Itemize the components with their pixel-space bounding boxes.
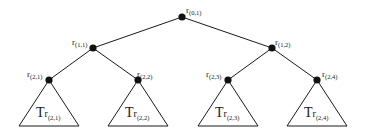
edge-r11-r21: [49, 48, 93, 80]
subtree-label-r21: Tr(2,1): [36, 105, 60, 122]
node-r24: [313, 76, 320, 83]
edge-r01-r12: [182, 17, 272, 48]
subtree-label-r24: Tr(2,4): [304, 105, 328, 122]
node-label-r11: r(1,1): [72, 37, 87, 49]
node-label-r23: r(2,3): [206, 69, 221, 81]
node-r21: [45, 76, 52, 83]
node-r01: [178, 13, 185, 20]
tree-edges: [49, 17, 317, 80]
node-label-r01: r(0,1): [186, 5, 201, 17]
tree-nodes: [45, 13, 320, 83]
subtree-triangles: [19, 80, 347, 126]
node-label-r21: r(2,1): [27, 69, 42, 81]
binary-tree-diagram: r(0,1) r(1,1) r(1,2) r(2,1) r(2,2) r(2,3…: [0, 0, 365, 138]
edge-r01-r11: [93, 17, 182, 48]
node-label-r24: r(2,4): [322, 69, 337, 81]
subtree-labels: Tr(2,1) Tr(2,2) Tr(2,3) Tr(2,4): [36, 105, 328, 122]
edge-r11-r22: [93, 48, 138, 80]
subtree-label-r22: Tr(2,2): [125, 105, 149, 122]
subtree-label-r23: Tr(2,3): [215, 105, 239, 122]
node-label-r22: r(2,2): [137, 69, 152, 81]
node-r11: [89, 44, 96, 51]
node-r23: [224, 76, 231, 83]
edge-r12-r23: [228, 48, 272, 80]
node-label-r12: r(1,2): [275, 37, 290, 49]
edge-r12-r24: [272, 48, 317, 80]
